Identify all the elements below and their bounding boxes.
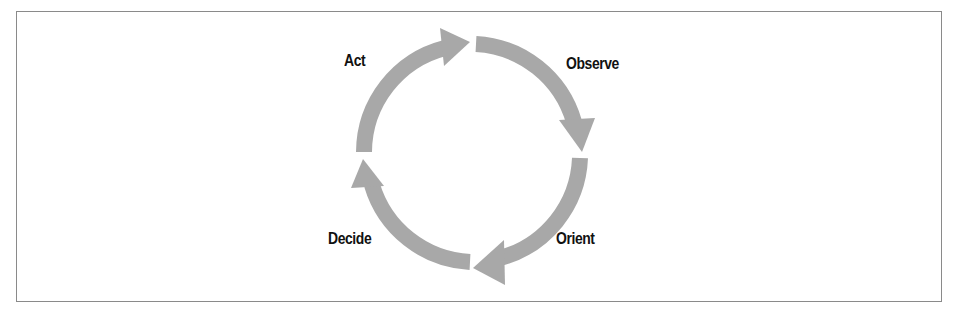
stage-label-observe: Observe (566, 54, 619, 74)
stage-label-act: Act (344, 51, 365, 71)
arrowhead-right-icon (440, 28, 470, 66)
stage-label-orient: Orient (556, 229, 595, 249)
arrowhead-left-icon (473, 240, 505, 285)
stage-label-decide: Decide (328, 229, 371, 249)
arc-act (364, 48, 445, 152)
arrowhead-down-icon (559, 118, 595, 152)
arc-observe (476, 44, 574, 122)
ooda-cycle-diagram (0, 0, 955, 310)
arrowhead-up-icon (351, 159, 384, 188)
arc-decide (372, 185, 470, 262)
